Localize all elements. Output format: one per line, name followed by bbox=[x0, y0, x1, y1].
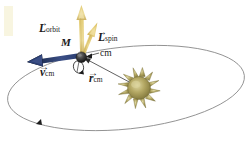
label-r-cm: →rcm bbox=[89, 73, 103, 85]
label-L-orbit: →Lorbit bbox=[39, 23, 60, 35]
orbit-path bbox=[3, 35, 248, 141]
label-L-spin: →Lspin bbox=[98, 32, 118, 44]
figure-canvas: M →Lorbit →Lspin →vcm →rcm cm bbox=[0, 0, 252, 146]
background-smudge bbox=[4, 6, 13, 36]
sun-graphic bbox=[118, 68, 160, 109]
spin-vector-arrowhead-icon bbox=[87, 23, 97, 38]
orbit-direction-marker-icon bbox=[36, 119, 42, 125]
label-v-cm: →vcm bbox=[40, 67, 54, 79]
label-cm: cm bbox=[100, 49, 112, 59]
label-mass-M: M bbox=[61, 37, 71, 48]
velocity-vector bbox=[27, 53, 77, 66]
planet-body bbox=[76, 52, 87, 63]
